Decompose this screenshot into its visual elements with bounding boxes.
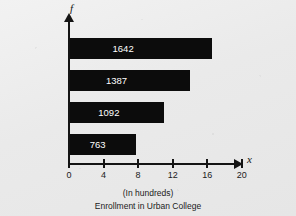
x-tick-label-0: 0 — [57, 170, 81, 180]
bar-value-freshmen: 1642 — [113, 38, 134, 59]
x-tick-label-20: 20 — [230, 170, 254, 180]
y-axis-label: f — [70, 2, 73, 14]
chart-units-caption: (In hundreds) — [0, 188, 296, 198]
x-tick-label-8: 8 — [126, 170, 150, 180]
y-axis-arrow-icon — [64, 13, 74, 22]
bar-value-sophomores: 1387 — [106, 70, 127, 91]
x-tick-label-12: 12 — [161, 170, 185, 180]
chart-page: f x Freshmen1642Sophomores1387Juniors109… — [0, 0, 296, 216]
x-tick-8 — [137, 159, 139, 168]
bar-value-juniors: 1092 — [98, 102, 119, 123]
bar-value-seniors: 763 — [90, 134, 106, 155]
x-axis-label: x — [247, 153, 252, 165]
x-tick-4 — [103, 159, 105, 168]
x-tick-label-4: 4 — [92, 170, 116, 180]
chart-title: Enrollment in Urban College — [0, 201, 296, 211]
x-axis-line — [68, 163, 236, 165]
x-tick-16 — [206, 159, 208, 168]
bar-sophomores[interactable] — [70, 70, 190, 91]
bar-chart: f x Freshmen1642Sophomores1387Juniors109… — [0, 0, 296, 216]
x-tick-20 — [241, 159, 243, 168]
x-tick-0 — [68, 159, 70, 168]
x-tick-12 — [172, 159, 174, 168]
bar-freshmen[interactable] — [70, 38, 212, 59]
x-tick-label-16: 16 — [195, 170, 219, 180]
